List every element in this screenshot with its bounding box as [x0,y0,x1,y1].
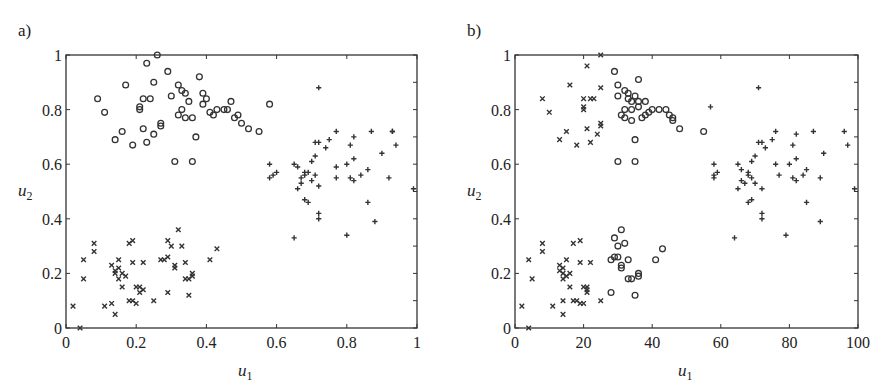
data-point-circles [168,93,174,99]
panel-b: b) 02040608010000.20.40.60.81 u1 u2 [467,21,870,383]
data-point-plus [323,145,328,150]
data-point-crosses [561,298,566,303]
data-point-crosses [92,249,97,254]
data-point-plus [821,151,826,156]
data-point-circles [615,82,621,88]
data-point-crosses [92,241,97,246]
data-point-crosses [520,304,525,309]
panel-b-ticks: 02040608010000.20.40.60.81 [491,47,870,351]
data-point-circles [193,134,199,140]
data-point-crosses [116,277,121,282]
data-point-plus [379,151,384,156]
data-point-plus [794,156,799,161]
data-point-plus [344,233,349,238]
data-point-plus [739,178,744,183]
data-point-plus [309,159,314,164]
data-point-circles [615,243,621,249]
data-point-crosses [540,96,545,101]
data-point-circles [632,159,638,165]
data-point-plus [372,219,377,224]
panel-a-axes-frame [66,55,417,328]
data-point-crosses [574,143,579,148]
data-point-plus [351,178,356,183]
x-tick-label: 40 [644,334,660,351]
data-point-circles [186,99,192,105]
data-point-crosses [109,301,114,306]
data-point-plus [794,178,799,183]
data-point-circles [632,137,638,143]
data-point-circles [144,60,150,66]
data-point-circles [625,257,631,263]
data-point-plus [292,235,297,240]
y-tick-label: 0.4 [42,211,62,228]
data-point-circles [632,93,638,99]
data-point-plus [299,181,304,186]
data-point-crosses [540,241,545,246]
data-point-plus [715,170,720,175]
data-point-circles [622,240,628,246]
data-point-circles [629,118,635,124]
data-point-plus [348,175,353,180]
data-point-crosses [595,132,600,137]
data-point-plus [759,140,764,145]
data-point-crosses [547,110,552,115]
data-point-crosses [169,244,174,249]
data-point-plus [790,142,795,147]
data-point-plus [773,129,778,134]
data-point-circles [656,107,662,113]
data-point-circles [608,290,614,296]
data-point-crosses [568,83,573,88]
panel-b-ylabel: u2 [467,181,482,203]
data-point-crosses [176,227,181,232]
data-point-plus [711,162,716,167]
data-point-circles [622,107,628,113]
data-point-circles [140,126,146,132]
data-point-plus [753,181,758,186]
data-point-plus [411,186,416,191]
data-point-circles [189,115,195,121]
data-point-crosses [585,126,590,131]
panel-b-xlabel: u1 [678,361,693,383]
y-tick-label: 0 [503,320,511,337]
panel-a: a) 00.20.40.60.8100.20.40.60.81 u1 u2 [18,21,421,383]
x-tick-label: 0.6 [267,334,287,351]
data-point-crosses [588,140,593,145]
data-point-plus [708,104,713,109]
data-point-circles [102,109,108,115]
data-point-crosses [578,260,583,265]
data-point-circles [214,107,220,113]
data-point-plus [351,156,356,161]
data-point-crosses [581,96,586,101]
data-point-plus [295,164,300,169]
data-point-plus [369,129,374,134]
data-point-plus [267,175,272,180]
panel-b-scatter-points [520,53,858,331]
data-point-circles [182,115,188,121]
figure: a) 00.20.40.60.8100.20.40.60.81 u1 u2 b)… [0,0,892,388]
data-point-circles [112,137,118,143]
x-tick-label: 100 [846,334,870,351]
data-point-crosses [151,298,156,303]
data-point-crosses [581,301,586,306]
data-point-plus [344,162,349,167]
data-point-plus [746,173,751,178]
data-point-circles [239,120,245,126]
data-point-circles [172,159,178,165]
data-point-plus [818,175,823,180]
data-point-plus [390,129,395,134]
data-point-plus [327,137,332,142]
data-point-circles [95,96,101,102]
data-point-plus [804,200,809,205]
data-point-crosses [113,312,118,317]
data-point-circles [189,159,195,165]
data-point-crosses [598,298,603,303]
data-point-crosses [113,271,118,276]
data-point-plus [302,173,307,178]
data-point-plus [316,85,321,90]
data-point-plus [794,132,799,137]
data-point-crosses [130,298,135,303]
y-tick-label: 0 [54,320,62,337]
data-point-crosses [165,238,170,243]
y-tick-label: 0.6 [491,156,511,173]
y-tick-label: 0.8 [491,102,511,119]
